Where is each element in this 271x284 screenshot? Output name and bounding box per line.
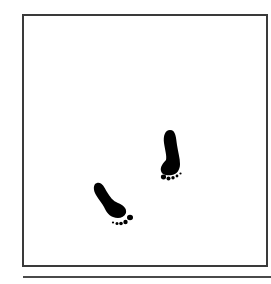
left-footprint-icon [94, 183, 133, 225]
horizontal-rule [23, 276, 271, 278]
right-footprint-icon [161, 130, 182, 181]
footprints-illustration [0, 0, 271, 284]
